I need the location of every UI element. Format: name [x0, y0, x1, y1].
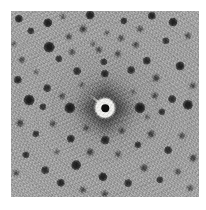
- diffraction-plate: [11, 11, 199, 197]
- film-grain-overlay-secondary: [11, 11, 199, 197]
- diffraction-image-canvas: [0, 0, 206, 210]
